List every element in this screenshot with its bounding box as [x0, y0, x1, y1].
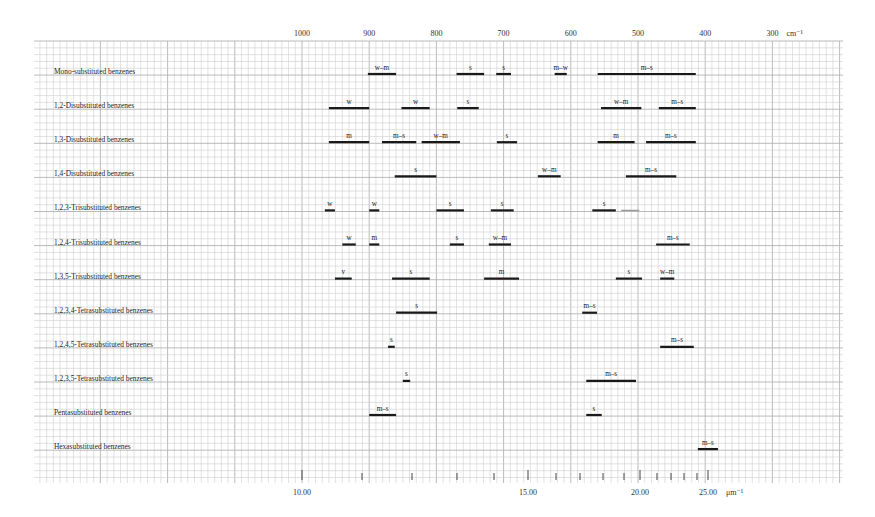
substitution-row: 1,2,3-Trisubstituted benzeneswwsss	[54, 200, 639, 213]
row-label: 1,2,3,4-Tetrasubstituted benzenes	[54, 306, 153, 315]
band-intensity-label: s	[603, 200, 606, 208]
band-intensity-label: s	[405, 370, 408, 378]
substitution-row: Pentasubstituted benzenesm–ss	[54, 405, 602, 418]
substitution-row: 1,2,4-Trisubstituted benzeneswmsw–mm–s	[54, 234, 690, 247]
band-intensity-label: s	[449, 200, 452, 208]
band-intensity-label: w–m	[434, 132, 449, 140]
band-intensity-label: m	[613, 132, 619, 140]
band-intensity-label: v	[342, 268, 346, 276]
substitution-row: 1,2-Disubstituted benzeneswwsw–mm–s	[54, 98, 696, 111]
band-intensity-label: m	[346, 132, 352, 140]
substitution-row: 1,3,5-Trisubstituted benzenesvsmsw–m	[54, 268, 675, 281]
band-intensity-label: s	[414, 166, 417, 174]
band-intensity-label: m–s	[671, 98, 683, 106]
top-tick-label: 800	[430, 29, 442, 38]
row-label: Pentasubstituted benzenes	[54, 408, 132, 417]
graph-paper-grid	[34, 41, 843, 483]
bottom-tick-label: 15.00	[519, 488, 537, 497]
band-intensity-label: w–m	[542, 166, 557, 174]
band-intensity-label: s	[469, 64, 472, 72]
band-intensity-label: m–s	[665, 132, 677, 140]
band-intensity-label: m–s	[671, 336, 683, 344]
band-intensity-label: m–s	[584, 302, 596, 310]
substitution-rows: Mono-substituted benzenesw–mssm–wm–s1,2-…	[54, 64, 718, 452]
band-intensity-label: s	[455, 234, 458, 242]
row-label: 1,2-Disubstituted benzenes	[54, 101, 134, 110]
row-label: 1,4-Disubstituted benzenes	[54, 169, 134, 178]
bottom-tick-label: 10.00	[293, 488, 311, 497]
substitution-row: 1,2,3,4-Tetrasubstituted benzenessm–s	[54, 302, 597, 315]
band-intensity-label: s	[409, 268, 412, 276]
top-tick-label: 1000	[294, 29, 310, 38]
substitution-row: Mono-substituted benzenesw–mssm–wm–s	[54, 64, 696, 77]
band-intensity-label: s	[502, 64, 505, 72]
bottom-tick-label: 20.00	[631, 488, 649, 497]
top-tick-label: 300	[766, 29, 778, 38]
benzene-substitution-ir-chart: 1000900800700600500400300cm⁻¹ Mono-subst…	[0, 0, 875, 517]
band-intensity-label: w	[372, 200, 378, 208]
row-label: 1,2,4-Trisubstituted benzenes	[54, 238, 141, 247]
band-intensity-label: m–w	[554, 64, 569, 72]
band-intensity-label: w–m	[493, 234, 508, 242]
row-label: Mono-substituted benzenes	[54, 67, 135, 76]
row-label: 1,3-Disubstituted benzenes	[54, 135, 134, 144]
row-label: 1,3,5-Trisubstituted benzenes	[54, 272, 141, 281]
top-axis-unit: cm⁻¹	[786, 29, 803, 38]
band-intensity-label: s	[628, 268, 631, 276]
band-intensity-label: m–s	[645, 166, 657, 174]
band-intensity-label: w	[413, 98, 419, 106]
bottom-axis-unit: μm⁻¹	[726, 488, 744, 497]
row-label: 1,2,3,5-Tetrasubstituted benzenes	[54, 374, 153, 383]
band-intensity-label: w	[327, 200, 333, 208]
band-intensity-label: m–s	[377, 405, 389, 413]
band-intensity-label: s	[415, 302, 418, 310]
top-wavenumber-axis: 1000900800700600500400300cm⁻¹	[294, 29, 803, 38]
substitution-row: 1,3-Disubstituted benzenesmm–sw–msmm–s	[54, 132, 696, 145]
bottom-tick-label: 25.00	[699, 488, 717, 497]
band-intensity-label: s	[506, 132, 509, 140]
band-intensity-label: m–s	[641, 64, 653, 72]
row-label: 1,2,3-Trisubstituted benzenes	[54, 203, 141, 212]
band-intensity-label: s	[501, 200, 504, 208]
band-intensity-label: w–m	[375, 64, 390, 72]
substitution-row: 1,2,3,5-Tetrasubstituted benzenessm–s	[54, 370, 636, 383]
top-tick-label: 600	[565, 29, 577, 38]
bottom-axis: 10.0015.0020.0025.00μm⁻¹	[293, 470, 744, 497]
band-intensity-label: m–s	[605, 370, 617, 378]
top-tick-label: 400	[699, 29, 711, 38]
band-intensity-label: w	[346, 98, 352, 106]
band-intensity-label: m–s	[393, 132, 405, 140]
band-intensity-label: s	[390, 336, 393, 344]
band-intensity-label: s	[467, 98, 470, 106]
band-intensity-label: w–m	[614, 98, 629, 106]
band-intensity-label: m	[499, 268, 505, 276]
band-intensity-label: s	[593, 405, 596, 413]
band-intensity-label: m	[371, 234, 377, 242]
top-tick-label: 500	[632, 29, 644, 38]
row-label: Hexasubstituted benzenes	[54, 442, 131, 451]
band-intensity-label: w	[346, 234, 352, 242]
band-intensity-label: w–m	[660, 268, 675, 276]
substitution-row: Hexasubstituted benzenesm–s	[54, 439, 718, 452]
top-tick-label: 900	[363, 29, 375, 38]
band-intensity-label: m–s	[702, 439, 714, 447]
band-intensity-label: m–s	[667, 234, 679, 242]
row-label: 1,2,4,5-Tetrasubstituted benzenes	[54, 340, 153, 349]
top-tick-label: 700	[498, 29, 510, 38]
